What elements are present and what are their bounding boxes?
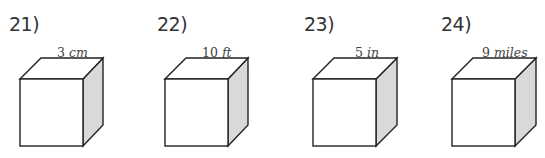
cube-figure: [405, 0, 545, 158]
cube-figure: [0, 0, 140, 158]
problem-22: 22) 10 ft: [140, 0, 280, 158]
cube-figure: [140, 0, 280, 158]
cube-figure: [280, 0, 420, 158]
problem-23: 23) 5 in: [280, 0, 420, 158]
problem-21: 21) 3 cm: [0, 0, 140, 158]
problem-24: 24) 9 miles: [405, 0, 545, 158]
